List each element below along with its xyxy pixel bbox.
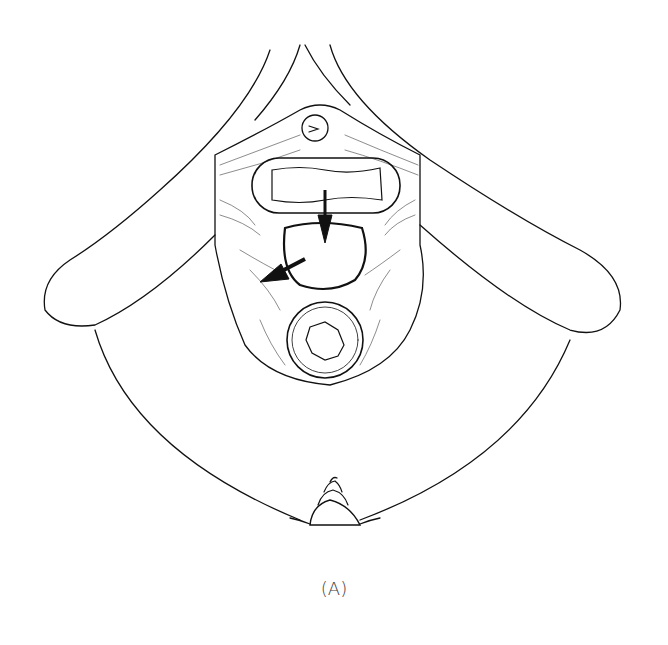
anatomical-illustration	[0, 0, 668, 645]
arrow-down	[318, 190, 332, 243]
arrow-left	[260, 259, 305, 282]
right-thigh	[330, 45, 621, 333]
figure-caption: (A)	[0, 578, 668, 599]
anal-opening	[287, 302, 363, 378]
body-contour	[95, 330, 570, 520]
muscle-field	[215, 105, 423, 385]
left-thigh	[44, 50, 270, 326]
